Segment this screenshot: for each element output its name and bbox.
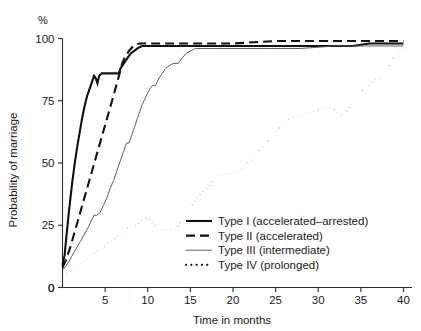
y-axis-unit-group: %	[38, 14, 48, 26]
y-axis-unit-label: %	[38, 14, 48, 26]
x-tick-label: 30	[312, 294, 325, 306]
x-tick-label: 40	[397, 294, 410, 306]
x-tick-label: 0	[48, 282, 54, 294]
x-tick-label: 25	[269, 294, 282, 306]
chart-legend: Type I (accelerated–arrested)Type II (ac…	[186, 215, 368, 271]
x-tick-label: 5	[102, 294, 108, 306]
legend-label-2: Type II (accelerated)	[218, 230, 323, 242]
y-tick-label: 75	[42, 95, 55, 107]
chart-container: % 0255075100 0510152025303540 Time in mo…	[0, 0, 421, 331]
x-tick-label: 15	[184, 294, 197, 306]
y-tick-label: 100	[35, 33, 54, 45]
legend-label-4: Type IV (prolonged)	[218, 259, 319, 271]
x-tick-label: 20	[227, 294, 240, 306]
y-tick-label: 25	[42, 219, 55, 231]
marriage-probability-line-chart: % 0255075100 0510152025303540 Time in mo…	[0, 0, 421, 331]
x-axis-ticks: 0510152025303540	[48, 282, 410, 306]
x-tick-label: 10	[141, 294, 154, 306]
legend-label-3: Type III (intermediate)	[218, 244, 330, 256]
y-axis-ticks: 0255075100	[35, 33, 62, 294]
x-tick-label: 35	[354, 294, 367, 306]
y-tick-label: 50	[42, 157, 55, 169]
y-axis-title: Probability of marriage	[7, 112, 19, 227]
x-axis-title: Time in months	[193, 314, 271, 326]
legend-label-1: Type I (accelerated–arrested)	[218, 215, 368, 227]
